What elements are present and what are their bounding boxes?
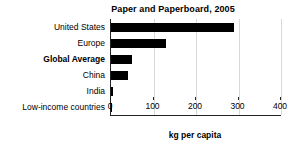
x-axis-tick-label: 0 bbox=[108, 100, 113, 112]
bar-chart: Paper and Paperboard, 2005 United States… bbox=[0, 0, 294, 150]
x-axis-tick-labels: 0100200300400 bbox=[110, 100, 280, 112]
bar bbox=[111, 39, 166, 48]
bar-row bbox=[111, 19, 281, 35]
x-axis-tick-label: 400 bbox=[273, 100, 287, 112]
category-label: United States bbox=[0, 19, 108, 35]
bar-row bbox=[111, 51, 281, 67]
x-axis-tick-label: 200 bbox=[188, 100, 202, 112]
bar bbox=[111, 87, 113, 96]
category-label: Low-income countries bbox=[0, 99, 108, 115]
bar bbox=[111, 23, 234, 32]
x-axis-tick-label: 300 bbox=[230, 100, 244, 112]
category-axis-labels: United StatesEuropeGlobal AverageChinaIn… bbox=[0, 19, 108, 115]
category-label: China bbox=[0, 67, 108, 83]
category-label: Global Average bbox=[0, 51, 108, 67]
bar-row bbox=[111, 67, 281, 83]
x-axis-title: kg per capita bbox=[110, 130, 280, 140]
category-label: Europe bbox=[0, 35, 108, 51]
bar-row bbox=[111, 35, 281, 51]
category-label: India bbox=[0, 83, 108, 99]
chart-title: Paper and Paperboard, 2005 bbox=[0, 4, 294, 14]
bar bbox=[111, 71, 128, 80]
x-axis-tick-label: 100 bbox=[145, 100, 159, 112]
bar bbox=[111, 55, 132, 64]
